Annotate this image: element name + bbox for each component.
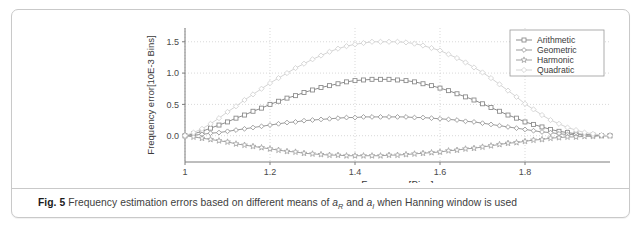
- caption-text-part2: and: [343, 197, 366, 208]
- figure-card: 11.21.41.61.80.00.51.01.5Frequency[Bins]…: [11, 9, 630, 218]
- chart-plot-region: 11.21.41.61.80.00.51.01.5Frequency[Bins]…: [12, 10, 629, 183]
- legend-label: Harmonic: [537, 55, 574, 65]
- y-tick-label: 1.5: [166, 37, 179, 47]
- x-tick-label: 1: [182, 167, 187, 177]
- legend-label: Arithmetic: [537, 35, 576, 45]
- x-tick-label: 1.2: [264, 167, 277, 177]
- figure-caption: Fig. 5 Frequency estimation errors based…: [38, 196, 611, 213]
- chart-series: [182, 133, 613, 159]
- y-axis-label: Frequency error[10E-3 Bins]: [145, 35, 156, 154]
- figure-label: Fig. 5: [38, 197, 65, 208]
- y-tick-label: 0.5: [166, 100, 179, 110]
- x-tick-label: 1.4: [349, 167, 362, 177]
- legend-label: Geometric: [537, 45, 577, 55]
- caption-divider: [12, 188, 629, 189]
- x-tick-label: 1.8: [519, 167, 532, 177]
- legend-label: Quadratic: [537, 65, 575, 75]
- caption-text-part3: when Hanning window is used: [374, 197, 517, 208]
- caption-text-part1: Frequency estimation errors based on dif…: [68, 197, 332, 208]
- chart-legend: ArithmeticGeometricHarmonicQuadratic: [510, 30, 604, 76]
- x-tick-label: 1.6: [434, 167, 447, 177]
- frequency-error-chart: 11.21.41.61.80.00.51.01.5Frequency[Bins]…: [12, 10, 629, 183]
- y-tick-label: 1.0: [166, 68, 179, 78]
- y-tick-label: 0.0: [166, 131, 179, 141]
- caption-variable-ar: aR: [332, 197, 343, 208]
- x-axis-label: Frequency[Bins]: [361, 180, 433, 183]
